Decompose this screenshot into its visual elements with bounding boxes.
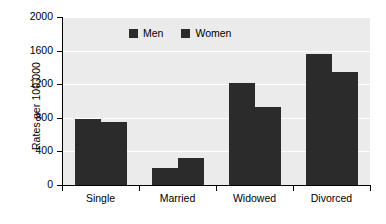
legend-swatch-icon xyxy=(181,29,190,38)
y-axis-tick xyxy=(57,51,62,52)
y-axis-tick xyxy=(57,17,62,18)
x-axis-tick xyxy=(139,186,140,191)
legend-label: Women xyxy=(195,28,231,39)
bar-widowed-men xyxy=(229,83,255,185)
bar-divorced-women xyxy=(332,72,358,185)
y-axis-tick-label: 1600 xyxy=(13,45,53,56)
x-axis-category-label: Widowed xyxy=(213,193,297,205)
bar-married-men xyxy=(152,168,178,185)
y-axis-tick-label: 400 xyxy=(13,145,53,156)
x-axis-category-label: Married xyxy=(136,193,220,205)
legend-label: Men xyxy=(143,28,163,39)
x-axis-tick xyxy=(216,186,217,191)
bar-widowed-women xyxy=(255,107,281,185)
y-axis-tick xyxy=(57,118,62,119)
legend-entry-women: Women xyxy=(181,28,231,39)
y-axis-tick-label: 2000 xyxy=(13,11,53,22)
bar-divorced-men xyxy=(306,54,332,185)
legend: MenWomen xyxy=(129,28,231,39)
bar-married-women xyxy=(178,158,204,185)
gridline xyxy=(62,51,370,52)
bar-chart: Rates per 100,000 0400800120016002000 Si… xyxy=(0,0,386,224)
y-axis-line xyxy=(62,17,63,186)
bar-single-women xyxy=(101,122,127,185)
y-axis-tick-label: 800 xyxy=(13,112,53,123)
bar-single-men xyxy=(75,119,101,185)
legend-swatch-icon xyxy=(129,29,138,38)
x-axis-category-label: Single xyxy=(59,193,143,205)
y-axis-tick-label: 0 xyxy=(13,179,53,190)
x-axis-category-label: Divorced xyxy=(290,193,374,205)
x-axis-tick xyxy=(293,186,294,191)
x-axis-tick xyxy=(370,186,371,191)
plot-area xyxy=(62,17,370,185)
y-axis-tick xyxy=(57,151,62,152)
y-axis-tick-label: 1200 xyxy=(13,78,53,89)
x-axis-tick xyxy=(62,186,63,191)
gridline xyxy=(62,17,370,18)
y-axis-tick xyxy=(57,84,62,85)
legend-entry-men: Men xyxy=(129,28,163,39)
